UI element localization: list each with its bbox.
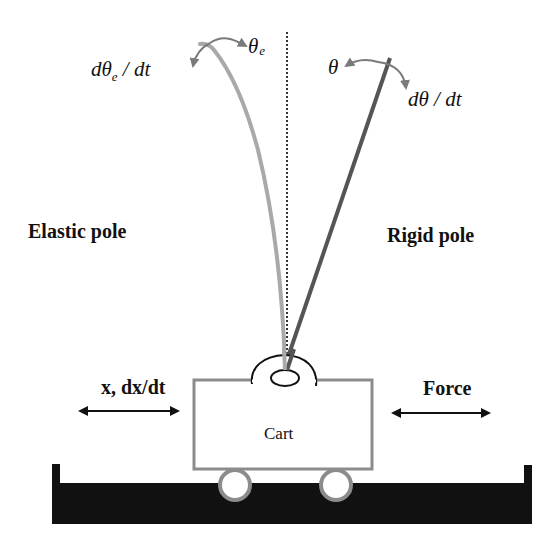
cart-pole-diagram: θe dθe / dt θ dθ / dt Elastic pole Rigid…	[0, 0, 558, 549]
elastic-pole	[200, 44, 285, 368]
cart-state-label: x, dx/dt	[101, 376, 166, 398]
dtheta-e-dt-label: dθe / dt	[91, 57, 151, 84]
wheel-right	[321, 470, 351, 500]
theta-e-arrow-icon	[210, 38, 246, 46]
rigid-pole-label: Rigid pole	[387, 224, 474, 247]
pivot-joint	[271, 370, 299, 386]
track	[52, 464, 532, 524]
theta-arrow-icon	[346, 60, 378, 66]
theta-e-label: θe	[248, 34, 265, 58]
elastic-pole-label: Elastic pole	[28, 220, 126, 243]
theta-label: θ	[328, 55, 338, 79]
dtheta-dt-label: dθ / dt	[408, 87, 463, 111]
elastic-pole-base	[284, 348, 285, 370]
force-label: Force	[423, 377, 472, 399]
wheel-left	[220, 470, 250, 500]
cart-label: Cart	[264, 424, 294, 443]
rigid-pole	[287, 58, 390, 360]
